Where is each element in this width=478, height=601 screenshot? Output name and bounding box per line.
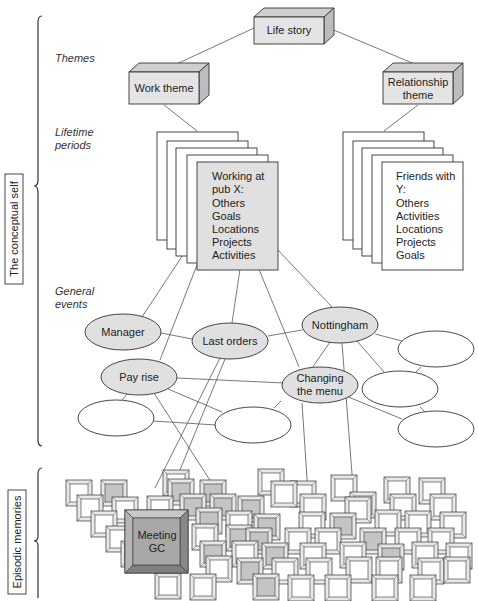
memory-tile — [253, 574, 279, 600]
event-changing-the-menu: Changing the menu — [282, 367, 358, 403]
event-blank-3 — [398, 331, 474, 367]
relationship-period-line-3: Others — [396, 197, 430, 209]
work-period-line-6: Projects — [212, 236, 252, 248]
episodic-memories-bracket — [34, 468, 42, 598]
event-changing-menu-label-line2: the menu — [297, 385, 343, 397]
event-blank-2 — [215, 407, 291, 443]
event-nottingham: Nottingham — [302, 307, 378, 343]
relationship-period-line-4: Activities — [396, 210, 440, 222]
relationship-period-line-1: Friends with — [396, 170, 455, 182]
memory-tile — [288, 575, 314, 601]
relationship-lifetime-period-stack: Friends with Y: Others Activities Locati… — [343, 132, 463, 270]
memory-meeting-gc: Meeting GC — [125, 510, 188, 573]
event-pay-rise: Pay rise — [101, 359, 177, 395]
conceptual-self-text: The conceptual self — [8, 180, 20, 276]
work-lifetime-period-stack: Working at pub X: Others Goals Locations… — [157, 132, 278, 270]
memory-meeting-gc-label-line1: Meeting — [137, 529, 176, 541]
episodic-memories-label: Episodic memories — [8, 490, 26, 594]
life-story-label: Life story — [267, 24, 312, 36]
conceptual-self-bracket — [34, 16, 42, 446]
relationship-theme-label-line1: Relationship — [388, 76, 449, 88]
memory-meeting-gc-label-line2: GC — [149, 542, 166, 554]
relationship-period-line-2: Y: — [396, 183, 406, 195]
memory-tile — [444, 557, 470, 583]
general-events-level-label-line2: events — [55, 298, 88, 310]
conceptual-self-label: The conceptual self — [5, 174, 23, 284]
event-manager-label: Manager — [101, 326, 145, 338]
lifetime-periods-level-label-line1: Lifetime — [55, 126, 94, 138]
relationship-theme-box: Relationship theme — [383, 63, 463, 104]
event-manager: Manager — [85, 314, 161, 350]
memory-tile — [410, 575, 436, 601]
work-period-line-1: Working at — [212, 170, 264, 182]
event-last-orders: Last orders — [192, 323, 268, 359]
work-period-line-2: pub X: — [212, 183, 244, 195]
work-theme-box: Work theme — [129, 63, 209, 104]
work-theme-label: Work theme — [134, 82, 193, 94]
relationship-period-line-6: Projects — [396, 236, 436, 248]
relationship-period-line-7: Goals — [396, 249, 425, 261]
lifetime-periods-level-label-line2: periods — [54, 139, 92, 151]
work-period-line-3: Others — [212, 197, 246, 209]
relationship-theme-label-line2: theme — [403, 89, 434, 101]
themes-level-label: Themes — [55, 52, 95, 64]
event-changing-menu-label-line1: Changing — [296, 372, 343, 384]
memory-tile — [271, 481, 297, 507]
memory-tile — [325, 575, 351, 601]
episodic-memories-text: Episodic memories — [11, 495, 23, 588]
relationship-period-line-5: Locations — [396, 223, 444, 235]
event-pay-rise-label: Pay rise — [119, 371, 159, 383]
event-nottingham-label: Nottingham — [312, 319, 368, 331]
event-blank-5 — [398, 411, 474, 447]
memory-tile — [372, 575, 398, 601]
work-period-line-4: Goals — [212, 210, 241, 222]
general-events-level-label-line1: General — [55, 285, 95, 297]
life-story-box: Life story — [254, 8, 334, 44]
event-last-orders-label: Last orders — [202, 335, 258, 347]
general-events: Manager Last orders Nottingham Pay rise … — [78, 307, 474, 447]
memory-tile — [190, 574, 216, 600]
autobiographical-memory-diagram: The conceptual self Episodic memories Th… — [0, 0, 478, 601]
work-period-line-5: Locations — [212, 223, 260, 235]
event-blank-4 — [362, 371, 438, 407]
event-blank-1 — [78, 400, 154, 436]
work-period-line-7: Activities — [212, 249, 256, 261]
memory-tile — [155, 573, 181, 599]
